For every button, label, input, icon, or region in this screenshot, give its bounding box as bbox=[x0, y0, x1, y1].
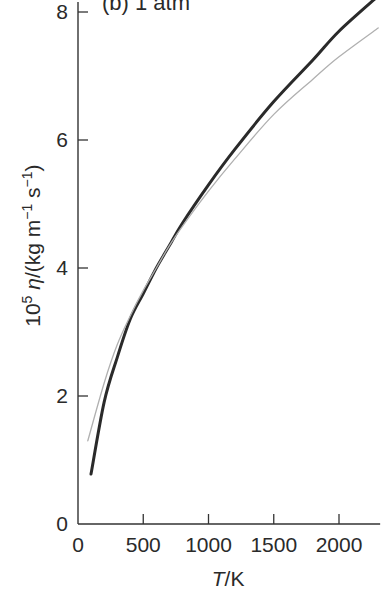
y-tick-label: 2 bbox=[56, 384, 68, 407]
chart: 024680500100015002000 T/K105 η/(kg m−1 s… bbox=[0, 0, 392, 595]
thick-curve bbox=[91, 0, 378, 474]
x-tick-label: 1500 bbox=[250, 533, 297, 556]
series-group bbox=[88, 0, 378, 474]
labels: T/K105 η/(kg m−1 s−1)(b) 1 atm bbox=[19, 0, 244, 590]
y-axis-title: 105 η/(kg m−1 s−1) bbox=[19, 164, 44, 326]
y-tick-label: 6 bbox=[56, 128, 68, 151]
x-axis-title: T/K bbox=[212, 567, 245, 590]
y-tick-label: 8 bbox=[56, 0, 68, 23]
panel-label: (b) 1 atm bbox=[102, 0, 190, 15]
y-tick-label: 0 bbox=[56, 512, 68, 535]
x-tick-label: 500 bbox=[126, 533, 161, 556]
x-tick-label: 0 bbox=[72, 533, 84, 556]
x-tick-label: 2000 bbox=[316, 533, 363, 556]
x-tick-label: 1000 bbox=[185, 533, 232, 556]
y-tick-label: 4 bbox=[56, 256, 68, 279]
thin-curve bbox=[88, 28, 378, 441]
axes: 024680500100015002000 bbox=[56, 0, 380, 556]
